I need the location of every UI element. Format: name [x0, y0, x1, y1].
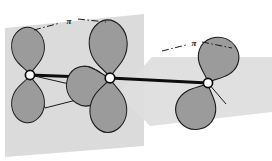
orbital-diagram-figure: π π [0, 0, 272, 161]
orbital-diagram-canvas: π π [0, 0, 272, 161]
pi-label-right: π [192, 38, 198, 48]
center-atom [105, 73, 115, 83]
pi-right-line-a [162, 45, 186, 51]
right-atom [203, 78, 212, 87]
plane-group [5, 14, 272, 157]
left-atom [25, 70, 34, 79]
